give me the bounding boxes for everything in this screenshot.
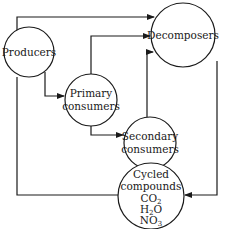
label-secondary-line1: Secondary [122, 130, 178, 142]
edge-producers-primary [45, 72, 64, 96]
nutrient-cycle-diagram: Producers Primary consumers Secondary co… [0, 0, 233, 229]
edge-decomposers-cycled [185, 61, 217, 195]
label-cycled-line2: compounds [121, 180, 182, 192]
label-producers: Producers [2, 46, 56, 58]
edge-primary-decomposers [91, 36, 150, 74]
label-secondary-line2: consumers [121, 143, 179, 155]
label-decomposers: Decomposers [147, 29, 219, 41]
edge-secondary-decomposers [147, 52, 153, 117]
label-cycled-line1: Cycled [133, 168, 169, 180]
edge-primary-secondary [91, 126, 123, 135]
label-primary-line1: Primary [70, 87, 113, 99]
label-primary-line2: consumers [62, 100, 120, 112]
